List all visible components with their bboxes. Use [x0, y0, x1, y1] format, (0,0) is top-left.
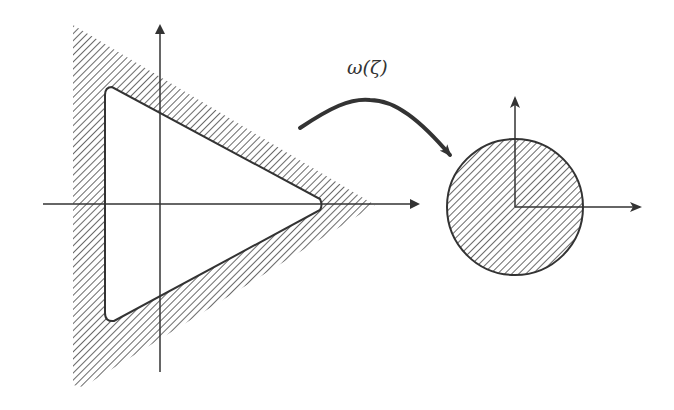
hatched-triangular-region: [73, 25, 375, 387]
mapping-label: ω(ζ): [347, 56, 388, 78]
left-figure: [43, 25, 418, 387]
mapping-arrow: [300, 100, 450, 155]
right-figure: [447, 98, 640, 275]
diagram-svg: [0, 0, 674, 410]
diagram-canvas: ω(ζ): [0, 0, 674, 410]
